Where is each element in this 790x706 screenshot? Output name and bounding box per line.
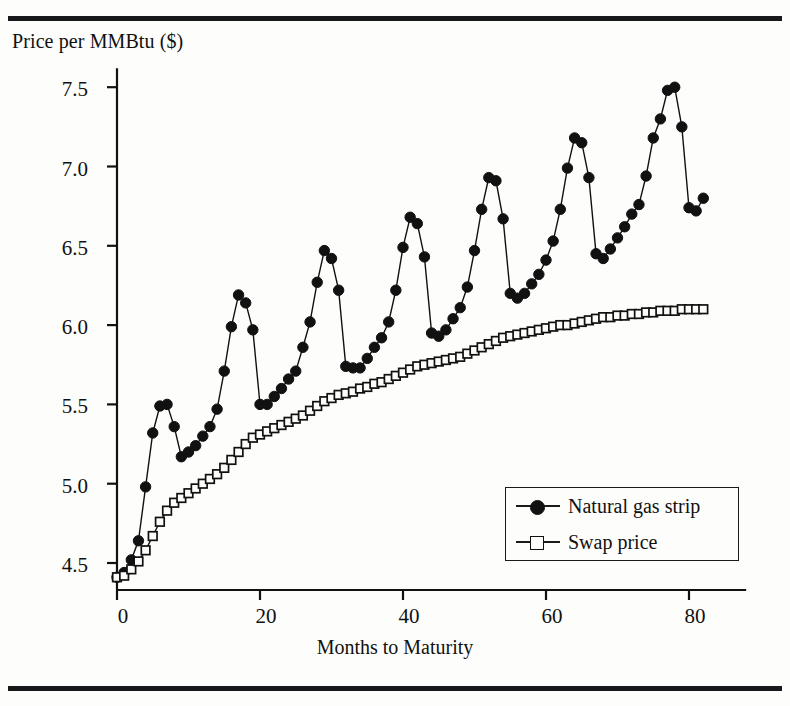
- y-tick-label-7.5: 7.5: [28, 79, 88, 100]
- x-tick-label-60: 60: [522, 606, 582, 627]
- legend-label-series1: Natural gas strip: [560, 495, 700, 518]
- y-tick-label-4.5: 4.5: [28, 555, 88, 576]
- x-tick-label-20: 20: [236, 606, 296, 627]
- plot-area: [0, 0, 790, 706]
- y-tick-label-5.0: 5.0: [28, 476, 88, 497]
- x-tick-label-80: 80: [665, 606, 725, 627]
- legend-label-series2: Swap price: [560, 531, 657, 554]
- x-tick-label-40: 40: [379, 606, 439, 627]
- x-tick-label-0: 0: [93, 606, 153, 627]
- figure-container: Price per MMBtu ($) Months to Maturity 7…: [0, 0, 790, 706]
- y-tick-label-6.5: 6.5: [28, 238, 88, 259]
- legend-item-swap-price: Swap price: [506, 524, 738, 560]
- y-tick-label-6.0: 6.0: [28, 317, 88, 338]
- filled-circle-marker-icon: [516, 497, 560, 515]
- chart-canvas: [0, 0, 790, 706]
- y-tick-label-7.0: 7.0: [28, 159, 88, 180]
- chart-legend: Natural gas strip Swap price: [505, 487, 739, 561]
- y-tick-label-5.5: 5.5: [28, 396, 88, 417]
- legend-item-natural-gas-strip: Natural gas strip: [506, 488, 738, 524]
- open-square-marker-icon: [516, 533, 560, 551]
